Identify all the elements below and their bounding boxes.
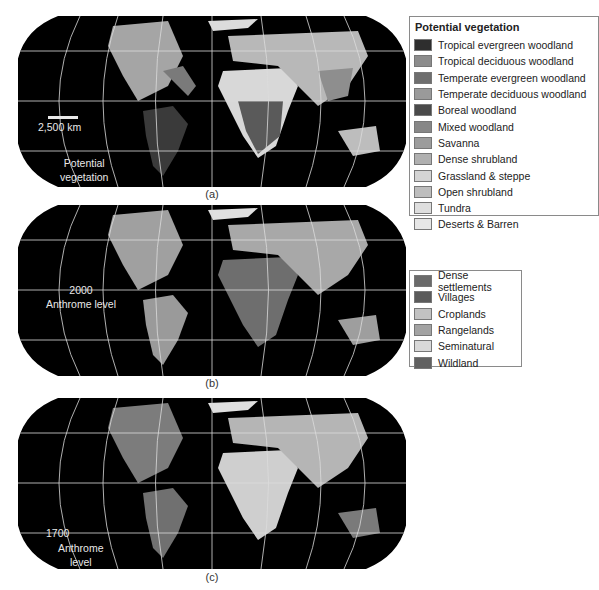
map-panel-b: 2000 Anthrome level — [18, 205, 406, 376]
legend-label: Wildland — [438, 357, 478, 369]
legend-potential-vegetation: Potential vegetation Tropical evergreen … — [409, 16, 599, 216]
legend-swatch — [414, 218, 432, 230]
legend-label: Boreal woodland — [438, 104, 516, 116]
legend-item: Mixed woodland — [410, 118, 598, 134]
map-label: Potential vegetation — [60, 156, 108, 184]
legend-swatch — [414, 170, 432, 182]
legend-title: Potential vegetation — [410, 17, 598, 37]
legend-item: Dense settlements — [410, 273, 521, 289]
legend-label: Savanna — [438, 137, 479, 149]
legend-item: Tropical deciduous woodland — [410, 53, 598, 69]
legend-item: Deserts & Barren — [410, 216, 598, 232]
legend-label: Croplands — [438, 308, 486, 320]
legend-swatch — [414, 121, 432, 133]
legend-label: Grassland & steppe — [438, 170, 530, 182]
legend-label: Open shrubland — [438, 186, 513, 198]
legend-label: Temperate evergreen woodland — [438, 72, 586, 84]
legend-item: Tundra — [410, 200, 598, 216]
legend-label: Temperate deciduous woodland — [438, 88, 586, 100]
legend-label: Tundra — [438, 202, 471, 214]
legend-swatch — [414, 72, 432, 84]
legend-item: Tropical evergreen woodland — [410, 37, 598, 53]
map-label: Anthrome level — [58, 541, 104, 569]
legend-swatch — [414, 88, 432, 100]
legend-label: Mixed woodland — [438, 121, 514, 133]
legend-label: Dense settlements — [438, 269, 521, 293]
legend-label: Rangelands — [438, 324, 494, 336]
legend-item: Seminatural — [410, 338, 521, 354]
panel-caption-c: (c) — [0, 571, 424, 583]
legend-item: Wildland — [410, 354, 521, 370]
legend-anthromes: Dense settlementsVillagesCroplandsRangel… — [409, 270, 522, 367]
legend-item: Croplands — [410, 306, 521, 322]
legend-item: Boreal woodland — [410, 102, 598, 118]
legend-item: Open shrubland — [410, 184, 598, 200]
legend-item: Grassland & steppe — [410, 167, 598, 183]
legend-label: Tropical evergreen woodland — [438, 39, 573, 51]
scale-bar — [48, 116, 78, 119]
legend-swatch — [414, 275, 432, 287]
scale-bar-label: 2,500 km — [38, 120, 81, 134]
legend-item: Rangelands — [410, 322, 521, 338]
legend-label: Dense shrubland — [438, 153, 517, 165]
legend-swatch — [414, 291, 432, 303]
panel-caption-a: (a) — [0, 188, 424, 200]
legend-swatch — [414, 153, 432, 165]
legend-item: Savanna — [410, 135, 598, 151]
legend-swatch — [414, 39, 432, 51]
legend-swatch — [414, 324, 432, 336]
legend-label: Deserts & Barren — [438, 218, 519, 230]
legend-swatch — [414, 308, 432, 320]
legend-swatch — [414, 340, 432, 352]
legend-swatch — [414, 104, 432, 116]
panel-caption-b: (b) — [0, 377, 424, 389]
legend-swatch — [414, 186, 432, 198]
legend-label: Tropical deciduous woodland — [438, 55, 574, 67]
legend-item: Dense shrubland — [410, 151, 598, 167]
map-label-year: 1700 — [46, 526, 69, 540]
legend-swatch — [414, 202, 432, 214]
map-panel-a: 2,500 km Potential vegetation — [18, 16, 406, 187]
legend-swatch — [414, 137, 432, 149]
map-panel-c: 1700 Anthrome level — [18, 398, 406, 569]
legend-label: Seminatural — [438, 340, 494, 352]
legend-swatch — [414, 55, 432, 67]
legend-swatch — [414, 357, 432, 369]
legend-item: Temperate deciduous woodland — [410, 86, 598, 102]
legend-label: Villages — [438, 291, 475, 303]
map-label: 2000 Anthrome level — [46, 283, 116, 311]
legend-item: Temperate evergreen woodland — [410, 70, 598, 86]
